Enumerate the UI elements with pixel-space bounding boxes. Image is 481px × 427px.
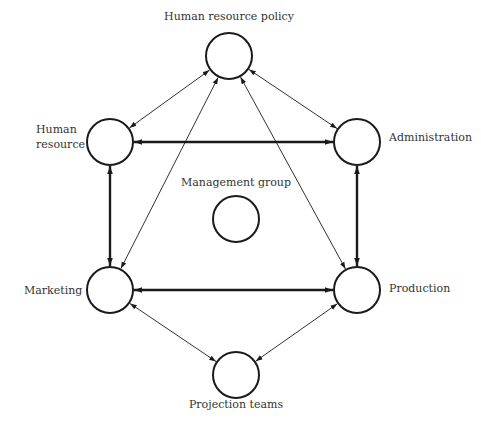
- label-line: Marketing: [24, 284, 82, 297]
- organization-diagram: Human resource policyHumanresourceAdmini…: [0, 0, 481, 427]
- label-marketing: Marketing: [24, 284, 82, 297]
- label-projection-teams: Projection teams: [189, 398, 283, 411]
- label-line: Administration: [388, 131, 472, 144]
- edge-hr-policy-human-resource: [129, 70, 209, 128]
- label-human-resource: Humanresource: [36, 123, 85, 151]
- node-hr-policy: [206, 33, 252, 79]
- label-line: Production: [389, 282, 450, 295]
- edge-hr-policy-production: [241, 77, 346, 269]
- nodes-layer: [87, 33, 380, 398]
- label-line: Human: [36, 123, 77, 136]
- label-line: Management group: [181, 176, 291, 189]
- edge-marketing-projection-teams: [130, 303, 216, 361]
- edge-production-projection-teams: [256, 304, 338, 361]
- node-projection-teams: [213, 352, 259, 398]
- label-administration: Administration: [388, 131, 472, 144]
- edge-hr-policy-marketing: [121, 77, 218, 268]
- node-production: [334, 267, 380, 313]
- label-line: resource: [36, 138, 85, 151]
- node-marketing: [87, 267, 133, 313]
- node-management-group: [213, 196, 259, 242]
- label-management-group: Management group: [181, 176, 291, 189]
- label-hr-policy: Human resource policy: [164, 10, 295, 23]
- label-line: Human resource policy: [164, 10, 295, 23]
- label-line: Projection teams: [189, 398, 283, 411]
- label-production: Production: [389, 282, 450, 295]
- edge-hr-policy-administration: [249, 69, 337, 128]
- node-administration: [334, 119, 380, 165]
- node-human-resource: [87, 119, 133, 165]
